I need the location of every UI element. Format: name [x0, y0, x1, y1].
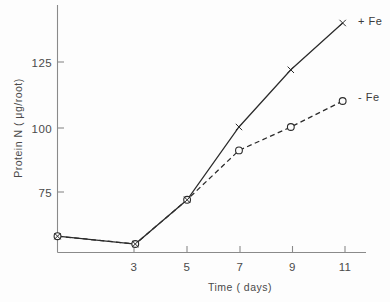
legend-label-minus-fe: - Fe [358, 91, 380, 103]
y-tick-label-125: 125 [32, 57, 52, 69]
chart-plot-area: 125 100 75 3 5 7 9 11 Time ( days) Prote… [0, 0, 390, 302]
series-line-plus-fe [58, 23, 343, 244]
x-axis-title: Time ( days) [208, 281, 272, 293]
y-tick-label-75: 75 [38, 187, 52, 199]
y-axis-title: Protein N ( μg/root) [12, 78, 24, 178]
y-tick-label-100: 100 [32, 123, 52, 135]
series-markers-plus-fe [54, 20, 346, 247]
x-axis-ticks: 3 5 7 9 11 [131, 246, 352, 273]
legend-label-plus-fe: + Fe [358, 15, 382, 27]
x-tick-label-11: 11 [339, 261, 352, 273]
data-point-marker-circle [287, 124, 294, 131]
data-point-marker-circle [339, 98, 346, 105]
x-tick-label-5: 5 [184, 261, 191, 273]
protein-nitrogen-time-course-chart: 125 100 75 3 5 7 9 11 Time ( days) Prote… [0, 0, 390, 302]
x-tick-label-7: 7 [237, 261, 244, 273]
x-tick-label-9: 9 [289, 261, 296, 273]
data-point-marker-circle [236, 147, 243, 154]
series-markers-minus-fe [54, 98, 346, 248]
series-line-minus-fe [58, 101, 343, 244]
y-axis-ticks: 125 100 75 [32, 57, 64, 199]
x-tick-label-3: 3 [131, 261, 138, 273]
